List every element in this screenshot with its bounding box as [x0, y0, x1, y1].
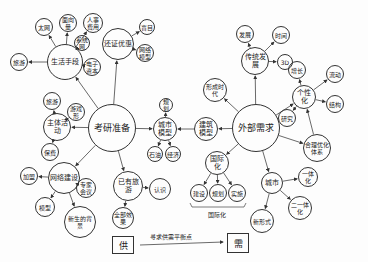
mind-map-node-n1f: 旅游	[10, 53, 28, 71]
mind-map-node-n4c: 模型	[35, 197, 55, 217]
mind-map-node-n13: 城市	[261, 172, 283, 194]
supply-box: 供	[112, 236, 134, 254]
mind-map-node-n4a: 加盟	[20, 167, 38, 185]
mind-map-node-n5a: 认识	[149, 178, 171, 200]
mind-map-node-n6b: 石油	[147, 146, 163, 162]
mind-map-node-n7: 建筑模型	[194, 117, 218, 141]
mind-map-node-n8: 形成时代	[203, 78, 227, 102]
mind-map-node-n4d: 新生的背景	[64, 206, 96, 238]
mind-map-node-n1d: 系统网	[74, 35, 90, 51]
mind-map-node-n10d: 研究	[278, 109, 296, 127]
mind-map-node-n3a: 旅游	[43, 92, 61, 110]
balance-arrow-label: 寻求供需平衡点	[150, 232, 192, 241]
supply-label: 供	[119, 239, 128, 252]
mind-map-node-n12a: 建设	[190, 184, 208, 202]
mind-map-node-n10c: 结构	[326, 95, 344, 113]
demand-box: 需	[227, 233, 249, 253]
mind-map-node-n5: 已有旅游	[113, 171, 143, 201]
mind-map-node-n13a: 一体化	[298, 167, 318, 187]
mind-map-node-n2b: 网络模型	[136, 44, 154, 62]
mind-map-node-n10: 个性化	[292, 85, 316, 109]
mind-map-node-n12: 国际化	[205, 151, 229, 175]
mind-map-node-center_left: 考研准备	[88, 104, 136, 152]
mind-map-node-n6a: 规划	[159, 98, 173, 112]
demand-label: 需	[234, 237, 243, 250]
mind-map-node-n3b: 游戏形	[67, 103, 85, 121]
mind-map-node-center_right: 外部需求	[232, 104, 280, 152]
mind-map-node-n3c: 保费	[41, 143, 59, 161]
mind-map-node-n1b: 面向量	[59, 14, 77, 32]
mind-map-node-n9b: 时间	[272, 26, 290, 44]
mind-map-node-n3: 主体活动	[43, 113, 71, 141]
mind-map-node-n2: 还证优惠	[102, 28, 134, 60]
mind-map-node-n4b: 专家会议	[76, 178, 96, 198]
mind-map-node-n6c: 经济	[165, 146, 181, 162]
mind-map-node-n12c: 实施	[228, 184, 246, 202]
mind-map-node-n13b: 二一体化	[288, 196, 312, 220]
group-label: 国际化	[208, 210, 226, 219]
mind-map-node-n2a: 盲目	[139, 19, 155, 35]
mind-map-node-n1a: 太网	[35, 18, 53, 36]
mind-map-node-n10a: 增长	[288, 61, 306, 79]
mind-map-node-n11: 合理优化体系	[303, 134, 331, 162]
mind-map-node-n9a: 发展	[236, 25, 254, 43]
mind-map-node-n1c: 人事费用	[83, 13, 103, 33]
mind-map-node-n9: 传统发展	[241, 47, 269, 75]
mind-map-node-n12b: 规划	[209, 184, 227, 202]
mind-map-node-n5b: 全部效果	[112, 207, 134, 229]
mind-map-node-n6: 城市模型	[153, 117, 177, 141]
mind-map-node-n10b: 流动	[326, 65, 344, 83]
mind-map-node-n13c: 新形式	[250, 209, 274, 233]
mind-map-canvas: 考研准备外部需求生活手段太网面向量人事费用系统网电子资本旅游还证优惠盲目网络模型…	[0, 0, 368, 262]
mind-map-node-n1e: 电子资本	[83, 58, 101, 76]
